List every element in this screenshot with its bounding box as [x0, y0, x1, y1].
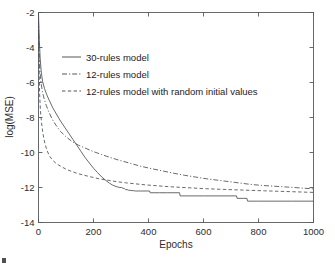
chart-background [0, 0, 335, 266]
x-tick-label: 600 [196, 226, 212, 237]
y-tick-label: -12 [21, 182, 35, 193]
y-tick-label: -6 [26, 77, 34, 88]
y-tick-label: -14 [21, 217, 35, 228]
x-tick-label: 400 [141, 226, 157, 237]
x-axis-label: Epochs [159, 239, 192, 250]
legend-label-1: 30-rules model [86, 52, 149, 63]
line-chart: 02004006008001000 -2-4-6-8-10-12-14 30-r… [0, 0, 335, 266]
y-tick-label: -8 [26, 112, 34, 123]
y-tick-label: -2 [26, 7, 34, 18]
x-tick-label: 0 [36, 226, 41, 237]
x-tick-label: 200 [86, 226, 102, 237]
chart-figure: 02004006008001000 -2-4-6-8-10-12-14 30-r… [0, 0, 335, 266]
x-tick-label: 800 [251, 226, 267, 237]
x-tick-label: 1000 [303, 226, 324, 237]
y-tick-label: -4 [26, 42, 34, 53]
legend-label-3: 12-rules model with random initial value… [86, 86, 258, 97]
y-tick-label: -10 [21, 147, 35, 158]
scan-artifact [2, 258, 6, 263]
y-axis-label: log(MSE) [4, 96, 15, 138]
legend-label-2: 12-rules model [86, 69, 149, 80]
